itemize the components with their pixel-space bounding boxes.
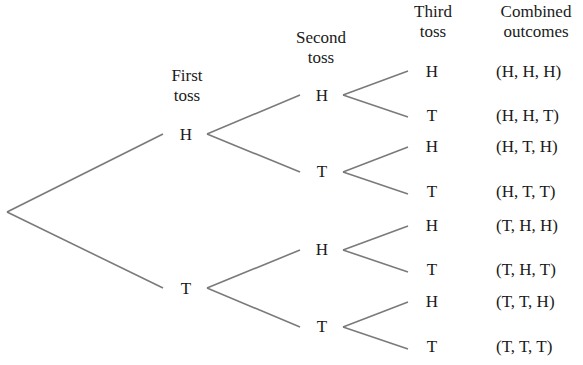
second-toss-node: H [312, 87, 332, 105]
third-toss-node: H [422, 293, 442, 311]
combined-outcome: (H, T, T) [496, 183, 556, 201]
branch-H-H [207, 95, 300, 134]
third-toss-node: T [422, 107, 442, 125]
second-toss-node: T [312, 163, 332, 181]
branch-root-H [7, 134, 163, 212]
header-second-toss: Second toss [286, 28, 356, 68]
second-toss-node: H [312, 241, 332, 259]
third-toss-node: T [422, 261, 442, 279]
first-toss-node: H [176, 126, 196, 144]
third-toss-node: T [422, 183, 442, 201]
third-toss-node: H [422, 217, 442, 235]
branch-T-T [207, 288, 300, 327]
combined-outcome: (H, H, T) [496, 107, 559, 125]
header-first-toss: First toss [162, 66, 212, 106]
header-third-toss: Third toss [403, 2, 463, 42]
combined-outcome: (H, H, H) [496, 63, 561, 81]
first-toss-node: T [176, 280, 196, 298]
third-toss-node: T [422, 338, 442, 356]
combined-outcome: (T, T, T) [496, 338, 552, 356]
third-toss-node: H [422, 138, 442, 156]
second-toss-node: T [312, 318, 332, 336]
branch-T-H [207, 250, 300, 288]
combined-outcome: (T, H, H) [496, 217, 558, 235]
combined-outcome: (H, T, H) [496, 138, 558, 156]
combined-outcome: (T, H, T) [496, 261, 556, 279]
header-combined-outcomes: Combined outcomes [488, 2, 583, 42]
third-toss-node: H [422, 63, 442, 81]
branch-root-T [7, 212, 163, 288]
combined-outcome: (T, T, H) [496, 293, 555, 311]
branch-H-T [207, 134, 300, 172]
